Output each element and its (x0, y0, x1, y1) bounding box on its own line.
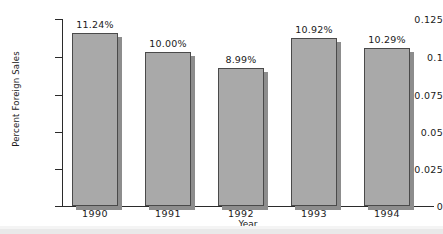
bar-body (218, 68, 264, 206)
bar-1991[interactable]: 10.00% (145, 52, 191, 206)
bar-body (291, 38, 337, 206)
bar-1990[interactable]: 11.24% (72, 33, 118, 206)
x-cat-label-1993: 1993 (291, 208, 337, 219)
y-tick-label-5: 0.125 (389, 14, 443, 25)
y-axis-title: Percent Foreign Sales (11, 39, 21, 159)
x-cat-label-1994: 1994 (364, 208, 410, 219)
x-cat-label-1992: 1992 (218, 208, 264, 219)
x-cat-label-1991: 1991 (145, 208, 191, 219)
x-cat-label-1990: 1990 (72, 208, 118, 219)
bar-value-label: 10.00% (149, 38, 186, 49)
bar-value-label: 11.24% (76, 19, 113, 30)
bar-1994[interactable]: 10.29% (364, 48, 410, 206)
bar-body (145, 52, 191, 206)
bar-1993[interactable]: 10.92% (291, 38, 337, 206)
bar-value-label: 10.92% (295, 24, 332, 35)
bar-1992[interactable]: 8.99% (218, 68, 264, 206)
bar-value-label: 10.29% (368, 34, 405, 45)
plot-area: 0 0.025 0.05 0.075 0.1 0.125 11.24% 10.0… (0, 0, 443, 234)
bar-value-label: 8.99% (225, 54, 256, 65)
y-axis-line (62, 19, 63, 207)
bar-body (72, 33, 118, 206)
scan-artifact-lower (0, 229, 443, 234)
bar-chart: 0 0.025 0.05 0.075 0.1 0.125 11.24% 10.0… (0, 0, 443, 234)
bar-body (364, 48, 410, 206)
